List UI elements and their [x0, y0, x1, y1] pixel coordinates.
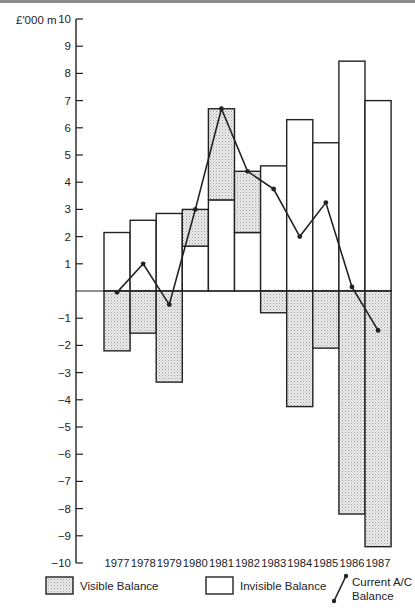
y-tick-label: 3 [65, 203, 71, 215]
x-tick-label: 1987 [366, 557, 391, 569]
legend-current-line-symbol [334, 576, 346, 601]
visible-balance-bar [287, 291, 313, 407]
visible-balance-bar [235, 171, 261, 232]
visible-balance-bar [339, 291, 365, 514]
invisible-balance-bar [182, 246, 208, 291]
y-tick-label: 2 [65, 231, 71, 243]
x-tick-label: 1983 [261, 557, 286, 569]
current-balance-point [193, 207, 198, 212]
legend: Visible Balance Invisible Balance Curren… [46, 574, 412, 603]
y-tick-label: −10 [51, 557, 71, 569]
invisible-balance-bar [130, 220, 156, 291]
current-balance-point [115, 290, 120, 295]
y-tick-label: −9 [58, 530, 71, 542]
legend-current-label-line1: Current A/C [352, 576, 412, 588]
y-tick-label: 6 [65, 122, 71, 134]
x-tick-label: 1980 [183, 557, 208, 569]
x-tick-label: 1979 [157, 557, 182, 569]
invisible-balance-bar [313, 143, 339, 291]
current-balance-point [323, 200, 328, 205]
x-axis-labels: 1977197819791980198119821983198419851986… [105, 557, 391, 569]
x-tick-label: 1984 [287, 557, 313, 569]
y-tick-label: 9 [65, 40, 71, 52]
current-balance-point [219, 106, 224, 111]
legend-invisible-swatch [206, 577, 233, 594]
y-tick-label: −5 [58, 421, 71, 433]
legend-visible-label: Visible Balance [80, 580, 158, 592]
current-balance-point [271, 187, 276, 192]
y-tick-label: −4 [58, 394, 72, 406]
x-tick-label: 1986 [339, 557, 364, 569]
invisible-balance-bar [261, 166, 287, 291]
legend-current-label-line2: Balance [352, 590, 394, 602]
current-balance-point [245, 169, 250, 174]
current-balance-point [167, 302, 172, 307]
invisible-balance-bar [235, 233, 261, 291]
current-balance-point [297, 234, 302, 239]
y-tick-label: −8 [58, 503, 71, 515]
visible-balance-bar [130, 291, 156, 333]
current-balance-point [141, 261, 146, 266]
y-tick-label: 5 [65, 149, 71, 161]
y-tick-label: 8 [65, 67, 71, 79]
y-tick-label: 7 [65, 95, 71, 107]
y-tick-label: −1 [58, 312, 71, 324]
visible-balance-bar [208, 109, 234, 200]
current-balance-point [376, 328, 381, 333]
current-balance-point [350, 285, 355, 290]
y-tick-label: 10 [58, 13, 71, 25]
y-axis-unit-label: £'000 m [16, 14, 57, 26]
legend-current-dot-bottom [332, 599, 336, 603]
visible-balance-bar [104, 291, 130, 351]
invisible-balance-bar [156, 213, 182, 291]
y-tick-label: −3 [58, 367, 71, 379]
invisible-balance-bar [287, 120, 313, 291]
visible-balance-bar [313, 291, 339, 348]
legend-visible-swatch [46, 577, 73, 594]
y-tick-label: −7 [58, 475, 71, 487]
x-tick-label: 1981 [209, 557, 234, 569]
visible-balance-bar [261, 291, 287, 313]
bars-group [104, 61, 391, 547]
y-tick-label: 4 [65, 176, 72, 188]
y-tick-label: −2 [58, 339, 71, 351]
y-tick-label: −6 [58, 448, 71, 460]
y-tick-label: 1 [65, 258, 71, 270]
x-tick-label: 1985 [313, 557, 338, 569]
x-tick-label: 1978 [131, 557, 156, 569]
invisible-balance-bar [208, 200, 234, 291]
chart-canvas: £'000 m 10987654321−1−2−3−4−5−6−7−8−9−10… [0, 0, 415, 614]
legend-current-dot-top [344, 574, 348, 578]
invisible-balance-bar [365, 101, 391, 291]
legend-invisible-label: Invisible Balance [240, 580, 326, 592]
x-tick-label: 1977 [105, 557, 130, 569]
x-tick-label: 1982 [235, 557, 260, 569]
